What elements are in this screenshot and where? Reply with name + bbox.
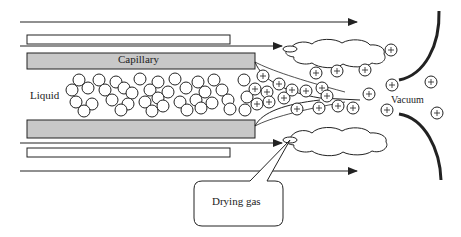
ion — [431, 107, 443, 119]
ion — [359, 64, 371, 76]
ion — [291, 103, 303, 115]
ion — [286, 84, 298, 96]
ion — [263, 96, 275, 108]
ion — [381, 104, 393, 116]
nozzle-tip-top — [283, 46, 297, 52]
sheath-tube-bottom — [27, 148, 230, 157]
ion — [363, 88, 375, 100]
ion — [249, 83, 261, 95]
ion — [347, 102, 359, 114]
ion — [313, 102, 325, 114]
liquid-droplets — [66, 73, 253, 117]
capillary-label: Capillary — [118, 53, 159, 65]
vacuum-inlet-upper — [399, 11, 439, 80]
ion — [321, 90, 333, 102]
ion — [332, 100, 344, 112]
ion — [251, 98, 263, 110]
vacuum-label: Vacuum — [391, 94, 424, 105]
capillary-wall-bottom — [27, 120, 255, 138]
ion — [331, 65, 343, 77]
ion — [257, 70, 269, 82]
esi-diagram: Capillary Liquid Vacuum Drying gas — [0, 0, 461, 237]
ion — [310, 67, 322, 79]
drying-gas-cloud-top — [286, 39, 385, 67]
ion — [425, 76, 437, 88]
drying-gas-label: Drying gas — [212, 195, 261, 207]
vacuum-inlet-lower — [399, 114, 441, 180]
liquid-label: Liquid — [30, 89, 59, 101]
ion — [273, 78, 285, 90]
drying-gas-cloud-bottom — [286, 127, 387, 155]
ion — [386, 79, 398, 91]
sheath-tube-top — [27, 35, 230, 44]
ion — [385, 44, 397, 56]
ion — [300, 85, 312, 97]
